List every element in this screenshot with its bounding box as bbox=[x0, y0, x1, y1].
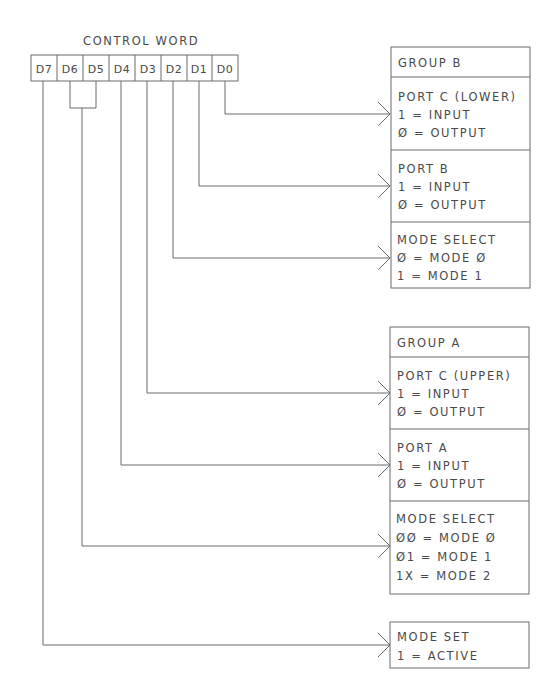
bit-d7: D7 bbox=[36, 63, 52, 76]
group-a-mode-select-title: MODE SELECT bbox=[396, 512, 496, 526]
bracket-d6-d5 bbox=[70, 81, 96, 108]
control-word-title: CONTROL WORD bbox=[83, 34, 199, 48]
port-c-lower-line: Ø = OUTPUT bbox=[398, 126, 487, 140]
port-c-upper-line: 1 = INPUT bbox=[397, 387, 470, 401]
mode-set-box: MODE SET 1 = ACTIVE bbox=[390, 622, 529, 668]
port-b-line: Ø = OUTPUT bbox=[398, 198, 487, 212]
connectors bbox=[43, 81, 390, 657]
mode-set-line: 1 = ACTIVE bbox=[397, 649, 479, 663]
group-a-box: GROUP A PORT C (UPPER) 1 = INPUT Ø = OUT… bbox=[390, 327, 529, 594]
connector-d6-d5 bbox=[82, 108, 390, 546]
bit-d5: D5 bbox=[88, 63, 104, 76]
group-b-mode-select-line: 1 = MODE 1 bbox=[397, 269, 483, 283]
control-word-register: D7 D6 D5 D4 D3 D2 D1 D0 bbox=[31, 55, 238, 81]
bit-d4: D4 bbox=[114, 63, 130, 76]
port-b-title: PORT B bbox=[398, 162, 449, 176]
port-c-lower-title: PORT C (LOWER) bbox=[398, 90, 517, 104]
connector-d2 bbox=[173, 81, 390, 258]
connector-d3 bbox=[147, 81, 390, 393]
bit-d2: D2 bbox=[166, 63, 182, 76]
port-b-line: 1 = INPUT bbox=[398, 180, 471, 194]
group-b-mode-select-line: Ø = MODE Ø bbox=[397, 251, 487, 265]
connector-d7 bbox=[43, 81, 390, 645]
port-a-line: 1 = INPUT bbox=[397, 459, 470, 473]
mode-set-title: MODE SET bbox=[397, 630, 470, 644]
group-a-mode-select-line: ØØ = MODE Ø bbox=[396, 531, 496, 545]
group-a-header: GROUP A bbox=[397, 336, 461, 350]
port-a-title: PORT A bbox=[397, 441, 448, 455]
group-b-box: GROUP B PORT C (LOWER) 1 = INPUT Ø = OUT… bbox=[391, 47, 530, 288]
bit-d6: D6 bbox=[62, 63, 78, 76]
connector-d4 bbox=[121, 81, 390, 465]
bit-d3: D3 bbox=[140, 63, 156, 76]
port-c-upper-title: PORT C (UPPER) bbox=[397, 369, 511, 383]
port-a-line: Ø = OUTPUT bbox=[397, 477, 486, 491]
bit-d0: D0 bbox=[217, 63, 233, 76]
group-a-mode-select-line: 1X = MODE 2 bbox=[396, 569, 492, 583]
connector-d0 bbox=[225, 81, 390, 114]
bit-d1: D1 bbox=[191, 63, 207, 76]
port-c-upper-line: Ø = OUTPUT bbox=[397, 405, 486, 419]
group-a-mode-select-line: Ø1 = MODE 1 bbox=[396, 550, 493, 564]
group-b-mode-select-title: MODE SELECT bbox=[397, 233, 497, 247]
port-c-lower-line: 1 = INPUT bbox=[398, 108, 471, 122]
connector-d1 bbox=[199, 81, 390, 186]
control-word-diagram: CONTROL WORD D7 D6 D5 D4 D3 D2 D1 D0 bbox=[0, 0, 557, 698]
group-b-header: GROUP B bbox=[398, 56, 462, 70]
